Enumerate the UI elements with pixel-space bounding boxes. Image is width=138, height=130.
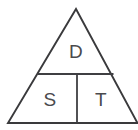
cell-label-speed: S [43,89,56,110]
dst-formula-triangle-figure: D S T [0,0,138,130]
triangle-diagram: D S T [0,0,138,130]
cell-label-time: T [95,89,107,110]
cell-label-distance: D [69,41,83,62]
